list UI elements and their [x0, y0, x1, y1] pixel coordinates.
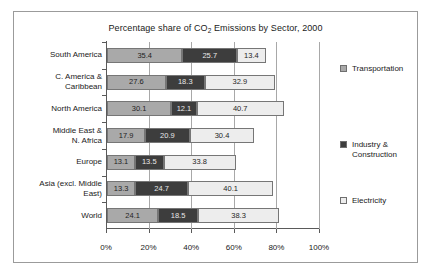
- bar-row: 17.920.930.4: [107, 128, 319, 143]
- bar-row: 27.618.332.9: [107, 75, 319, 90]
- legend-label: Electricity: [352, 196, 386, 206]
- bar-segment[interactable]: 38.3: [198, 208, 280, 223]
- bar-segment[interactable]: 13.3: [107, 181, 135, 196]
- bar-value-label: 40.1: [223, 185, 238, 193]
- legend-swatch-icon: [340, 141, 347, 148]
- bar-segment[interactable]: 24.1: [107, 208, 158, 223]
- bar-segment[interactable]: 13.4: [237, 48, 266, 63]
- legend-label: Industry & Construction: [352, 140, 397, 160]
- x-tick-label: 20%: [141, 243, 157, 252]
- bar-row: 13.324.740.1: [107, 181, 319, 196]
- y-tick-mark: [102, 69, 106, 70]
- legend-entry[interactable]: Transportation: [340, 64, 403, 74]
- legend-swatch-icon: [340, 197, 347, 204]
- bar-value-label: 40.7: [233, 105, 248, 113]
- y-tick-mark: [102, 42, 106, 43]
- legend-swatch-icon: [340, 65, 347, 72]
- bar-value-label: 17.9: [119, 132, 134, 140]
- y-tick-mark: [102, 202, 106, 203]
- y-axis-category-label: Europe: [76, 157, 102, 167]
- bar-value-label: 30.4: [215, 132, 230, 140]
- bar-value-label: 18.3: [178, 78, 193, 86]
- x-axis-tick-labels: 0%20%40%60%80%100%: [106, 243, 319, 257]
- bar-segment[interactable]: 13.5: [135, 155, 164, 170]
- x-tick-mark: [276, 229, 277, 233]
- bar-value-label: 38.3: [231, 212, 246, 220]
- bar-segment[interactable]: 20.9: [145, 128, 190, 143]
- bar-value-label: 13.1: [114, 158, 129, 166]
- y-axis-category-label: C. America & Caribbean: [55, 72, 102, 92]
- x-tick-label: 0%: [100, 243, 112, 252]
- bar-value-label: 27.6: [129, 78, 144, 86]
- x-axis-line: [106, 228, 319, 229]
- bar-value-label: 25.7: [202, 52, 217, 60]
- y-axis-category-label: World: [81, 211, 102, 221]
- bar-row: 35.425.713.4: [107, 48, 319, 63]
- chart-title-suffix: Emissions by Sector, 2000: [211, 23, 322, 33]
- bar-value-label: 24.1: [125, 212, 140, 220]
- bar-value-label: 32.9: [232, 78, 247, 86]
- y-tick-mark: [102, 95, 106, 96]
- y-axis-category-labels: South AmericaC. America & CaribbeanNorth…: [14, 42, 102, 229]
- y-axis-category-label: Middle East & N. Africa: [53, 126, 102, 146]
- chart-figure: Percentage share of CO2 Emissions by Sec…: [13, 11, 418, 263]
- legend-entry[interactable]: Electricity: [340, 196, 386, 206]
- y-axis-category-label: North America: [51, 104, 102, 114]
- bar-value-label: 18.5: [171, 212, 186, 220]
- bar-segment[interactable]: 30.4: [190, 128, 255, 143]
- legend-entry[interactable]: Industry & Construction: [340, 140, 397, 160]
- bar-row: 13.113.533.8: [107, 155, 319, 170]
- bar-segment[interactable]: 33.8: [164, 155, 236, 170]
- x-tick-mark: [234, 229, 235, 233]
- legend-label: Transportation: [352, 64, 403, 74]
- bar-segment[interactable]: 18.3: [166, 75, 205, 90]
- plot-area: 35.425.713.427.618.332.930.112.140.717.9…: [106, 42, 319, 229]
- bar-value-label: 13.4: [244, 52, 259, 60]
- bar-segment[interactable]: 24.7: [135, 181, 188, 196]
- bar-row: 24.118.538.3: [107, 208, 319, 223]
- chart-title: Percentage share of CO2 Emissions by Sec…: [14, 23, 417, 33]
- bar-segment[interactable]: 13.1: [107, 155, 135, 170]
- x-tick-label: 40%: [183, 243, 199, 252]
- bar-value-label: 12.1: [177, 105, 192, 113]
- bar-value-label: 30.1: [132, 105, 147, 113]
- y-axis-category-label: South America: [50, 50, 102, 60]
- bar-value-label: 13.3: [114, 185, 129, 193]
- chart-legend: TransportationIndustry & ConstructionEle…: [332, 42, 418, 229]
- x-tick-label: 80%: [268, 243, 284, 252]
- y-axis-category-label: Asia (excl. Middle East): [39, 179, 102, 199]
- bar-value-label: 13.5: [142, 158, 157, 166]
- bar-segment[interactable]: 30.1: [107, 101, 171, 116]
- bar-segment[interactable]: 40.1: [188, 181, 273, 196]
- bar-value-label: 24.7: [154, 185, 169, 193]
- bar-row: 30.112.140.7: [107, 101, 319, 116]
- y-tick-mark: [102, 122, 106, 123]
- bar-segment[interactable]: 25.7: [182, 48, 237, 63]
- y-tick-mark: [102, 176, 106, 177]
- bar-segment[interactable]: 35.4: [107, 48, 182, 63]
- bar-value-label: 35.4: [137, 52, 152, 60]
- x-gridline: [319, 42, 320, 229]
- chart-title-subscript: 2: [208, 27, 212, 34]
- y-tick-mark: [102, 149, 106, 150]
- bar-segment[interactable]: 17.9: [107, 128, 145, 143]
- x-tick-label: 60%: [226, 243, 242, 252]
- chart-title-prefix: Percentage share of CO: [108, 23, 207, 33]
- bar-segment[interactable]: 12.1: [171, 101, 197, 116]
- x-tick-mark: [149, 229, 150, 233]
- bar-segment[interactable]: 40.7: [197, 101, 284, 116]
- bar-segment[interactable]: 27.6: [107, 75, 166, 90]
- x-tick-label: 100%: [309, 243, 329, 252]
- x-tick-mark: [106, 229, 107, 233]
- bar-value-label: 33.8: [192, 158, 207, 166]
- x-tick-mark: [319, 229, 320, 233]
- x-tick-mark: [191, 229, 192, 233]
- bar-segment[interactable]: 32.9: [205, 75, 275, 90]
- bar-value-label: 20.9: [160, 132, 175, 140]
- bar-segment[interactable]: 18.5: [158, 208, 197, 223]
